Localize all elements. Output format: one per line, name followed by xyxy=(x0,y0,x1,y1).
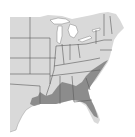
land-area xyxy=(10,12,124,132)
range-map xyxy=(0,0,135,137)
